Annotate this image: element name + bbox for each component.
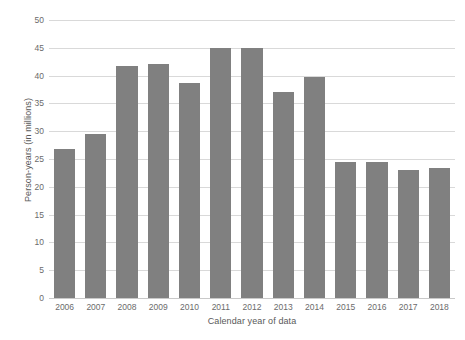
y-axis-tick-label: 50	[35, 16, 44, 25]
x-axis-tick-labels: 2006200720082009201020112012201320142015…	[49, 300, 455, 314]
bar[interactable]	[398, 170, 419, 298]
bar-chart: Person-years (in millions) 0510152025303…	[0, 0, 465, 340]
x-axis-tick-label: 2015	[336, 300, 355, 314]
x-axis-tick-label: 2007	[86, 300, 105, 314]
bar[interactable]	[210, 48, 231, 298]
bar[interactable]	[179, 83, 200, 298]
bar[interactable]	[366, 162, 387, 298]
bar[interactable]	[54, 149, 75, 298]
x-axis-tick-label: 2013	[274, 300, 293, 314]
x-axis-tick-label: 2018	[430, 300, 449, 314]
gridline: 0	[49, 298, 455, 299]
y-axis-tick-label: 30	[35, 127, 44, 136]
x-axis-tick-label: 2006	[55, 300, 74, 314]
y-axis-tick-label: 45	[35, 44, 44, 53]
bar[interactable]	[241, 48, 262, 298]
bar[interactable]	[429, 168, 450, 298]
x-axis-title: Calendar year of data	[49, 316, 455, 326]
y-axis-tick-label: 25	[35, 155, 44, 164]
x-axis-tick-label: 2014	[305, 300, 324, 314]
x-axis-tick-label: 2008	[118, 300, 137, 314]
plot-area: 05101520253035404550	[49, 20, 455, 298]
x-axis-tick-label: 2016	[367, 300, 386, 314]
bar[interactable]	[304, 77, 325, 298]
x-axis-tick-label: 2010	[180, 300, 199, 314]
y-axis-title: Person-years (in millions)	[21, 0, 35, 300]
x-axis-tick-label: 2017	[399, 300, 418, 314]
x-axis-tick-label: 2012	[243, 300, 262, 314]
bar[interactable]	[85, 134, 106, 298]
x-axis-tick-label: 2009	[149, 300, 168, 314]
bar[interactable]	[148, 64, 169, 298]
x-axis-tick-label: 2011	[212, 300, 230, 314]
y-axis-tick-label: 40	[35, 71, 44, 80]
bar[interactable]	[116, 66, 137, 298]
y-axis-tick-label: 35	[35, 99, 44, 108]
y-axis-tick-label: 15	[35, 210, 44, 219]
y-axis-tick-label: 5	[39, 266, 44, 275]
y-axis-tick-label: 10	[35, 238, 44, 247]
bars	[49, 20, 455, 298]
bar[interactable]	[335, 162, 356, 298]
y-axis-tick-label: 0	[39, 294, 44, 303]
bar[interactable]	[273, 92, 294, 298]
y-axis-tick-label: 20	[35, 183, 44, 192]
